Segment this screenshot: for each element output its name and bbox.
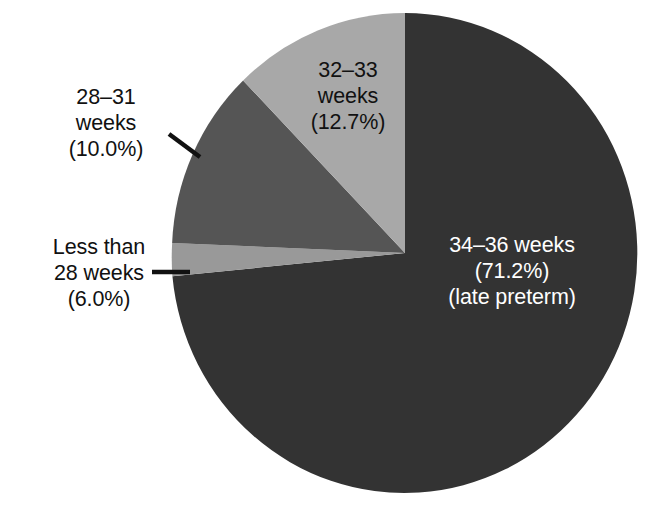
pie-label-less-than-28-weeks-line3: (6.0%)	[6, 286, 192, 312]
pie-label-32-33-weeks-line2: weeks	[272, 83, 424, 109]
pie-label-32-33-weeks-line3: (12.7%)	[272, 109, 424, 135]
pie-label-34-36-weeks-line3: (late preterm)	[404, 284, 620, 310]
pie-label-32-33-weeks[interactable]: 32–33 weeks (12.7%)	[272, 57, 424, 135]
pie-label-32-33-weeks-line1: 32–33	[272, 57, 424, 83]
pie-label-34-36-weeks-line2: (71.2%)	[404, 258, 620, 284]
pie-label-less-than-28-weeks-line1: Less than	[6, 234, 192, 260]
pie-label-less-than-28-weeks[interactable]: Less than 28 weeks (6.0%)	[6, 234, 192, 312]
pie-label-less-than-28-weeks-line2: 28 weeks	[6, 260, 192, 286]
pie-label-28-31-weeks-line3: (10.0%)	[18, 136, 194, 162]
pie-label-28-31-weeks[interactable]: 28–31 weeks (10.0%)	[18, 84, 194, 162]
pie-label-34-36-weeks[interactable]: 34–36 weeks (71.2%) (late preterm)	[404, 232, 620, 310]
pie-label-34-36-weeks-line1: 34–36 weeks	[404, 232, 620, 258]
pie-chart-figure: 28–31 weeks (10.0%) Less than 28 weeks (…	[0, 0, 645, 510]
pie-label-28-31-weeks-line1: 28–31	[18, 84, 194, 110]
pie-label-28-31-weeks-line2: weeks	[18, 110, 194, 136]
